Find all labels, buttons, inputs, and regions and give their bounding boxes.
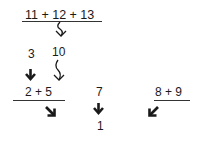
bold-southeast-arrow-icon	[45, 106, 56, 117]
wavy-down-arrow-icon	[52, 60, 66, 82]
middle-center-value: 7	[96, 86, 103, 98]
split-left-value: 3	[28, 48, 35, 60]
top-expression: 11 + 12 + 13	[25, 9, 94, 21]
middle-right-expression: 8 + 9	[155, 86, 182, 98]
middle-right-underline	[154, 100, 190, 101]
middle-left-underline	[13, 100, 65, 101]
bold-southwest-arrow-icon	[148, 106, 159, 117]
wavy-down-arrow-icon	[54, 22, 68, 38]
split-right-value: 10	[52, 46, 65, 58]
bold-down-arrow-icon	[25, 69, 36, 80]
result-value: 1	[97, 120, 104, 132]
middle-left-expression: 2 + 5	[25, 86, 52, 98]
bold-down-arrow-icon	[93, 103, 104, 114]
